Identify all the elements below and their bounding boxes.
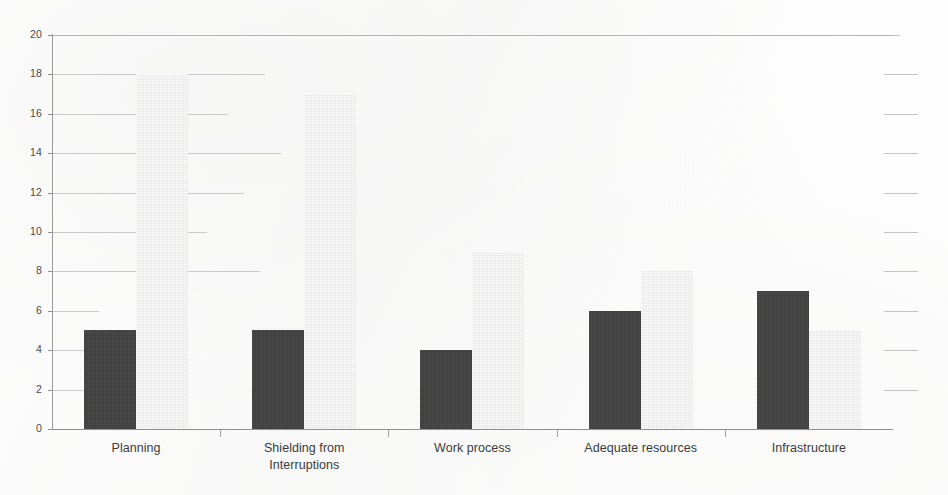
y-tick-label-20: 20 [16,28,42,40]
x-axis-category-labels: PlanningShielding fromInterruptionsWork … [52,438,893,488]
y-tick-label-8: 8 [16,264,42,276]
x-axis-separator-1 [220,430,221,437]
bar-series1-adequate-resources[interactable] [589,311,641,429]
y-tick-label-18: 18 [16,67,42,79]
plot-area [52,35,893,429]
category-label-adequate-resources: Adequate resources [557,438,725,488]
y-tick-label-14: 14 [16,146,42,158]
bar-group [220,35,388,429]
bar-series2-infrastructure[interactable] [809,330,861,429]
y-tick-label-6: 6 [16,304,42,316]
y-tick-label-4: 4 [16,343,42,355]
y-tick-label-16: 16 [16,107,42,119]
y-tick-label-10: 10 [16,225,42,237]
category-label-line: Infrastructure [772,441,846,455]
bar-series2-planning[interactable] [136,74,188,429]
bar-groups [52,35,893,429]
bar-series1-shielding-from-interruptions[interactable] [252,330,304,429]
y-tick-label-2: 2 [16,383,42,395]
bar-series2-adequate-resources[interactable] [641,271,693,429]
category-label-work-process: Work process [388,438,556,488]
category-label-line: Interruptions [220,457,388,474]
category-label-shielding-from-interruptions: Shielding fromInterruptions [220,438,388,488]
category-label-infrastructure: Infrastructure [725,438,893,488]
chart-screenshot: 02468101214161820 PlanningShielding from… [0,0,948,495]
bar-series1-infrastructure[interactable] [757,291,809,429]
y-tick-label-0: 0 [16,422,42,434]
x-axis-separator-4 [725,430,726,437]
bar-group [52,35,220,429]
x-axis-separator-2 [388,430,389,437]
bar-group [557,35,725,429]
bar-series2-shielding-from-interruptions[interactable] [304,94,356,429]
x-axis-separator-3 [557,430,558,437]
bar-group [388,35,556,429]
bar-group [725,35,893,429]
bar-series1-planning[interactable] [84,330,136,429]
bar-series2-work-process[interactable] [472,252,524,429]
bar-series1-work-process[interactable] [420,350,472,429]
y-tick-label-12: 12 [16,186,42,198]
category-label-line: Work process [434,441,511,455]
category-label-planning: Planning [52,438,220,488]
category-label-line: Planning [112,441,161,455]
grouped-bar-chart: 02468101214161820 PlanningShielding from… [0,0,948,495]
x-axis-line [52,429,893,430]
category-label-line: Adequate resources [584,441,697,455]
category-label-line: Shielding from [264,441,345,455]
